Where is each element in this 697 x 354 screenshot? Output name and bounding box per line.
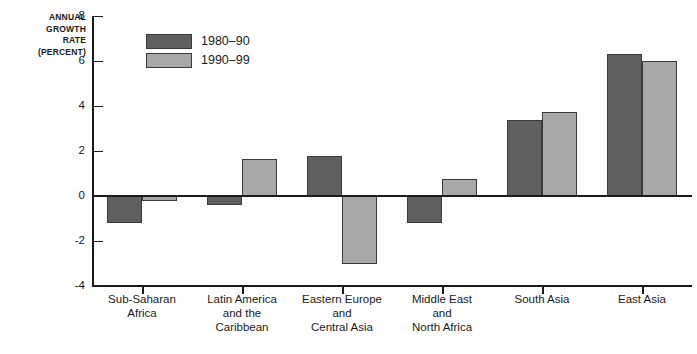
y-axis-tick [94, 241, 103, 242]
bar [342, 196, 377, 264]
bar [442, 179, 477, 196]
bar [507, 120, 542, 197]
category-label-line: and [292, 306, 392, 320]
category-label-line: Africa [92, 306, 192, 320]
category-label-line: and the [192, 306, 292, 320]
axis-bottom-line [92, 285, 692, 287]
bar [207, 196, 242, 205]
bar [542, 112, 577, 196]
zero-baseline [92, 195, 692, 197]
y-axis-title-line-1: ANNUAL [8, 12, 86, 24]
category-label-line: Sub-Saharan [92, 292, 192, 306]
bar-chart: ANNUAL GROWTH RATE (PERCENT) 1980–90 199… [0, 0, 697, 354]
y-axis-tick-label: 0 [79, 190, 85, 202]
y-axis-tick [94, 151, 103, 152]
category-label-line: North Africa [392, 320, 492, 334]
category-label: East Asia [592, 292, 692, 306]
y-axis-tick [94, 16, 103, 17]
bar [107, 196, 142, 223]
bar [607, 54, 642, 196]
category-label-line: South Asia [492, 292, 592, 306]
y-axis-tick-label: -2 [75, 235, 85, 247]
y-axis-tick-label: 6 [79, 55, 85, 67]
category-label-line: and [392, 306, 492, 320]
y-axis-tick-label: 8 [79, 10, 85, 22]
category-label-line: Central Asia [292, 320, 392, 334]
bar [307, 156, 342, 197]
bar [242, 159, 277, 196]
y-axis-title: ANNUAL GROWTH RATE (PERCENT) [8, 12, 86, 58]
category-label-line: East Asia [592, 292, 692, 306]
y-axis-title-line-3: RATE [8, 35, 86, 47]
category-label: South Asia [492, 292, 592, 306]
y-axis-tick [94, 61, 103, 62]
category-label: Middle EastandNorth Africa [392, 292, 492, 334]
category-label-line: Eastern Europe [292, 292, 392, 306]
category-label-line: Middle East [392, 292, 492, 306]
bar [642, 61, 677, 196]
plot-area: -4-202468 [92, 16, 692, 286]
bar [407, 196, 442, 223]
y-axis-tick-label: 2 [79, 145, 85, 157]
y-axis-tick-label: -4 [75, 280, 85, 292]
y-axis-tick-label: 4 [79, 100, 85, 112]
category-label-line: Caribbean [192, 320, 292, 334]
y-axis-title-line-4: (PERCENT) [8, 47, 86, 59]
category-label: Sub-SaharanAfrica [92, 292, 192, 320]
category-label: Eastern EuropeandCentral Asia [292, 292, 392, 334]
y-axis-title-line-2: GROWTH [8, 24, 86, 36]
category-label: Latin Americaand theCaribbean [192, 292, 292, 334]
y-axis-tick [94, 106, 103, 107]
category-label-line: Latin America [192, 292, 292, 306]
